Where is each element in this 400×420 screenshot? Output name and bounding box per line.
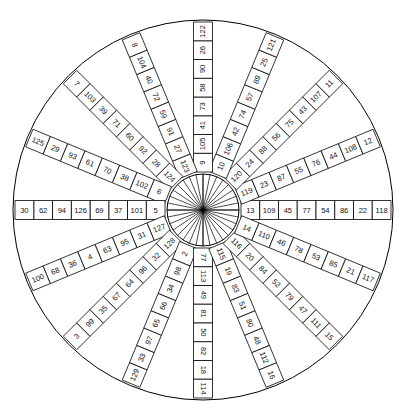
spoke-south: 771134981508218114	[194, 248, 213, 398]
wheel-cell-value: 122	[199, 25, 208, 38]
wheel-cell-value: 109	[263, 206, 276, 215]
wheel-cell-value: 41	[199, 121, 208, 129]
wheel-cell-value: 13	[246, 206, 254, 215]
spoke-east: 131094577548622118	[241, 201, 391, 220]
wheel-cell-value: 113	[199, 270, 208, 282]
wheel-cell-value: 62	[39, 206, 47, 215]
wheel-cell-value: 30	[20, 206, 28, 215]
wheel-cell-value: 5	[154, 206, 158, 215]
wheel-cell-value: 90	[199, 65, 208, 73]
wheel-spoke-lines	[167, 174, 239, 246]
spoke-west: 51013769126946230	[15, 201, 165, 220]
wheel-cell-value: 18	[199, 366, 208, 374]
wheel-cell-value: 37	[114, 206, 122, 215]
circular-number-wheel-figure: 1310945775486221181192387557644108121202…	[0, 0, 400, 420]
wheel-cell-value: 50	[199, 328, 208, 336]
wheel-cell-value: 114	[199, 383, 208, 395]
wheel-cell-value: 54	[321, 206, 329, 215]
wheel-cell-value: 101	[131, 206, 144, 215]
wheel-cell-value: 86	[340, 206, 348, 215]
wheel-cell-value: 26	[199, 46, 208, 54]
wheel-cell-value: 81	[199, 309, 208, 317]
wheel-cell-value: 73	[199, 102, 208, 110]
wheel-cell-value: 49	[199, 291, 208, 299]
wheel-cell-value: 9	[199, 161, 208, 165]
wheel-cell-value: 58	[199, 83, 208, 91]
wheel-cell-value: 22	[359, 206, 367, 215]
wheel-cell-value: 45	[284, 206, 292, 215]
wheel-cell-value: 82	[199, 347, 208, 355]
wheel-cell-value: 126	[74, 206, 87, 215]
wheel-cell-value: 105	[199, 138, 208, 151]
wheel-cell-value: 69	[95, 206, 103, 215]
wheel-cell-value: 94	[58, 206, 66, 215]
wheel-cell-value: 118	[376, 206, 388, 215]
wheel-cell-value: 77	[199, 253, 208, 261]
wheel-cell-value: 77	[302, 206, 310, 215]
wheel-canvas: 1310945775486221181192387557644108121202…	[0, 0, 400, 420]
spoke-north: 91054173589026122	[194, 22, 213, 172]
